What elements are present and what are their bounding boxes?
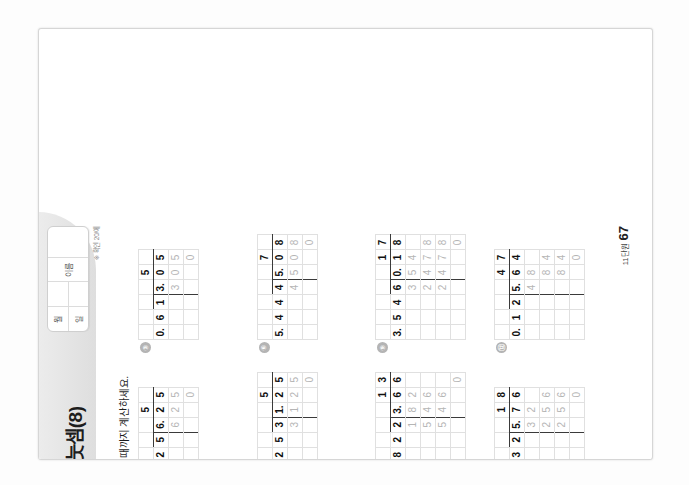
cell-digit[interactable]: 0 xyxy=(169,265,184,280)
cell-empty[interactable] xyxy=(569,310,584,325)
cell-digit[interactable]: 7 xyxy=(421,250,436,265)
cell-empty[interactable] xyxy=(169,310,184,325)
cell-empty[interactable] xyxy=(436,295,451,310)
cell-digit[interactable]: 5 xyxy=(287,372,302,387)
cell-digit[interactable]: 5 xyxy=(391,310,406,325)
cell-digit[interactable]: 5 xyxy=(272,432,287,447)
cell-empty[interactable] xyxy=(451,417,466,432)
cell-empty[interactable] xyxy=(302,447,317,460)
cell-empty[interactable] xyxy=(184,280,199,295)
name-value[interactable] xyxy=(48,227,88,257)
cell-digit[interactable]: 1 xyxy=(391,250,406,265)
cell-digit[interactable]: 5 xyxy=(154,432,169,447)
cell-digit[interactable]: 6. xyxy=(154,417,169,432)
cell-digit[interactable]: 5 xyxy=(554,402,569,417)
cell-empty[interactable] xyxy=(169,295,184,310)
cell-empty[interactable] xyxy=(524,447,539,460)
cell-digit[interactable]: 5 xyxy=(139,402,154,417)
cell-digit[interactable]: 3 xyxy=(287,417,302,432)
cell-empty[interactable] xyxy=(302,295,317,310)
cell-empty[interactable] xyxy=(524,432,539,447)
cell-empty[interactable] xyxy=(302,432,317,447)
cell-digit[interactable]: 5 xyxy=(154,387,169,402)
cell-empty[interactable] xyxy=(139,417,154,432)
cell-digit[interactable]: 6 xyxy=(391,387,406,402)
cell-empty[interactable] xyxy=(302,402,317,417)
cell-digit[interactable]: 3 xyxy=(272,417,287,432)
cell-digit[interactable]: 4 xyxy=(406,250,421,265)
cell-digit[interactable]: 4 xyxy=(421,402,436,417)
cell-empty[interactable] xyxy=(421,432,436,447)
cell-digit[interactable]: 5 xyxy=(539,402,554,417)
cell-digit[interactable]: 5. xyxy=(509,417,524,432)
cell-empty[interactable] xyxy=(569,325,584,340)
cell-empty[interactable] xyxy=(184,310,199,325)
cell-digit[interactable]: 0 xyxy=(569,387,584,402)
cell-empty[interactable] xyxy=(257,432,272,447)
cell-digit[interactable]: 5 xyxy=(287,265,302,280)
cell-empty[interactable] xyxy=(494,417,509,432)
cell-empty[interactable] xyxy=(287,447,302,460)
cell-digit[interactable]: 0. xyxy=(154,325,169,340)
cell-empty[interactable] xyxy=(539,280,554,295)
cell-digit[interactable]: 0 xyxy=(451,372,466,387)
cell-empty[interactable] xyxy=(376,432,391,447)
cell-digit[interactable]: 7 xyxy=(436,250,451,265)
cell-empty[interactable] xyxy=(554,432,569,447)
cell-empty[interactable] xyxy=(539,310,554,325)
cell-digit[interactable]: 0 xyxy=(569,250,584,265)
cell-digit[interactable]: 4 xyxy=(436,265,451,280)
cell-digit[interactable]: 4 xyxy=(287,280,302,295)
cell-empty[interactable] xyxy=(376,417,391,432)
cell-empty[interactable] xyxy=(569,295,584,310)
long-division-table[interactable]: 56.2531.2531250 xyxy=(257,372,318,460)
cell-digit[interactable]: 5 xyxy=(421,417,436,432)
cell-empty[interactable] xyxy=(451,295,466,310)
cell-empty[interactable] xyxy=(139,310,154,325)
cell-empty[interactable] xyxy=(554,295,569,310)
cell-empty[interactable] xyxy=(302,310,317,325)
cell-empty[interactable] xyxy=(436,432,451,447)
cell-empty[interactable] xyxy=(139,295,154,310)
cell-empty[interactable] xyxy=(569,417,584,432)
cell-digit[interactable]: 1 xyxy=(494,402,509,417)
cell-digit[interactable]: 5. xyxy=(272,325,287,340)
cell-digit[interactable]: 0 xyxy=(302,235,317,250)
cell-digit[interactable]: 4 xyxy=(494,265,509,280)
cell-digit[interactable]: 8 xyxy=(287,235,302,250)
cell-digit[interactable]: 8 xyxy=(406,402,421,417)
cell-digit[interactable]: 0 xyxy=(287,250,302,265)
cell-empty[interactable] xyxy=(451,402,466,417)
cell-empty[interactable] xyxy=(451,432,466,447)
cell-empty[interactable] xyxy=(139,432,154,447)
cell-digit[interactable]: 5 xyxy=(406,265,421,280)
cell-digit[interactable]: 6 xyxy=(509,265,524,280)
cell-digit[interactable]: 2 xyxy=(391,417,406,432)
cell-empty[interactable] xyxy=(539,432,554,447)
cell-empty[interactable] xyxy=(569,447,584,460)
cell-empty[interactable] xyxy=(421,447,436,460)
cell-digit[interactable]: 4 xyxy=(509,250,524,265)
cell-digit[interactable]: 4 xyxy=(436,402,451,417)
cell-digit[interactable]: 2 xyxy=(287,387,302,402)
cell-empty[interactable] xyxy=(539,295,554,310)
cell-empty[interactable] xyxy=(287,325,302,340)
cell-digit[interactable]: 2 xyxy=(391,432,406,447)
cell-digit[interactable]: 2 xyxy=(554,417,569,432)
cell-empty[interactable] xyxy=(139,280,154,295)
cell-empty[interactable] xyxy=(257,310,272,325)
cell-empty[interactable] xyxy=(554,447,569,460)
cell-empty[interactable] xyxy=(302,280,317,295)
cell-empty[interactable] xyxy=(376,402,391,417)
cell-digit[interactable]: 2 xyxy=(154,447,169,460)
long-division-table[interactable]: 131.8223.661825465460 xyxy=(375,372,466,460)
cell-empty[interactable] xyxy=(139,250,154,265)
cell-empty[interactable] xyxy=(287,310,302,325)
cell-digit[interactable]: 4 xyxy=(554,250,569,265)
cell-digit[interactable]: 5. xyxy=(509,280,524,295)
date-value-column[interactable] xyxy=(48,282,88,307)
cell-digit[interactable]: 4 xyxy=(539,250,554,265)
cell-empty[interactable] xyxy=(494,325,509,340)
cell-digit[interactable]: 5 xyxy=(169,387,184,402)
cell-empty[interactable] xyxy=(287,295,302,310)
